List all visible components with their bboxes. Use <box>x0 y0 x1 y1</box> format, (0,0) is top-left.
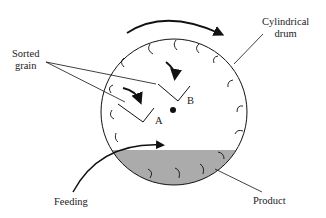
inner-rotation-arrow-a <box>123 88 140 101</box>
product-leader <box>215 169 262 192</box>
sorted-grain-leader-2 <box>46 62 125 102</box>
sorted-grain-leader-1 <box>46 62 156 84</box>
label-product: Product <box>253 195 286 207</box>
label-feeding: Feeding <box>54 196 88 208</box>
label-trough-a: A <box>155 115 163 127</box>
label-sorted-grain-line2: grain <box>12 60 39 72</box>
label-trough-b: B <box>187 95 194 107</box>
product-layer <box>100 150 250 190</box>
label-drum-line2: drum <box>262 28 309 40</box>
trough-a <box>118 104 154 122</box>
trough-b <box>158 84 190 101</box>
label-sorted-grain: Sorted grain <box>12 48 39 72</box>
label-drum-line1: Cylindrical <box>262 16 309 28</box>
drum-rotation-arrow <box>127 21 221 34</box>
drum-leader <box>234 34 263 64</box>
drum-axle <box>170 107 176 113</box>
label-sorted-grain-line1: Sorted <box>12 48 39 60</box>
label-cylindrical-drum: Cylindrical drum <box>262 16 309 40</box>
inner-rotation-arrow-b <box>166 62 175 77</box>
